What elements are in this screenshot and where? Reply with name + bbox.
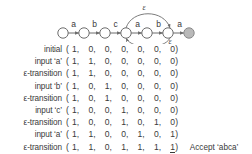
vector-cell: 1, xyxy=(105,93,121,103)
trace-row: input ‘a’(1,1,0,0,0,0,0) xyxy=(0,56,252,68)
state-4 xyxy=(142,28,152,38)
vector-cell: 1, xyxy=(72,81,88,91)
vector-comma: , xyxy=(142,105,144,115)
trace-row-label: input ‘b’ xyxy=(0,82,66,91)
vector-cell: 0, xyxy=(121,93,137,103)
epsilon-label-above: ε xyxy=(142,3,146,12)
edge-label-a-1: a xyxy=(71,19,76,29)
vector-comma: , xyxy=(93,93,95,103)
state-vector: (1,1,0,0,0,0,0) xyxy=(66,68,187,78)
vector-cell: 1, xyxy=(121,117,137,127)
vector-cell: 0, xyxy=(154,129,170,139)
vector-comma: , xyxy=(110,142,112,152)
vector-comma: , xyxy=(126,117,128,127)
vector-cell: 0, xyxy=(105,68,121,78)
edge-label-b-1: b xyxy=(92,19,97,29)
trace-row: input ‘a’(1,1,0,0,1,0,1) xyxy=(0,129,252,141)
state-3 xyxy=(121,28,131,38)
vector-cell: 1, xyxy=(121,105,137,115)
trace-row-label: initial xyxy=(0,45,66,54)
vector-comma: , xyxy=(77,56,79,66)
vector-comma: , xyxy=(110,81,112,91)
vector-comma: , xyxy=(110,129,112,139)
trace-row-label: ε-transition xyxy=(0,94,66,103)
vector-cell: 1, xyxy=(72,93,88,103)
vector-cell: 0, xyxy=(154,68,170,78)
trace-row: ε-transition(1,0,1,0,0,0,0) xyxy=(0,93,252,105)
trace-row-label: input ‘a’ xyxy=(0,130,66,139)
state-vector: (1,1,0,0,1,0,1) xyxy=(66,129,187,139)
vector-cell: 0, xyxy=(138,81,154,91)
vector-cell: 0) xyxy=(170,44,186,54)
vector-cell: 0, xyxy=(138,68,154,78)
vector-cell: 1, xyxy=(72,105,88,115)
accept-note: Accept ‘abca’ xyxy=(187,143,239,152)
trace-row: ε-transition(1,0,0,1,0,1,0) xyxy=(0,117,252,129)
vector-cell: 0, xyxy=(88,93,104,103)
vector-cell: 1, xyxy=(72,68,88,78)
vector-cell: 0) xyxy=(170,68,186,78)
vector-comma: , xyxy=(93,56,95,66)
vector-comma: , xyxy=(126,129,128,139)
state-vector: (1,0,0,1,0,1,0) xyxy=(66,117,187,127)
trace-row-label: input ‘c’ xyxy=(0,106,66,115)
vector-comma: , xyxy=(126,105,128,115)
vector-cell: 1, xyxy=(121,142,137,152)
vector-comma: , xyxy=(93,44,95,54)
trace-row: input ‘b’(1,0,1,0,0,0,0) xyxy=(0,81,252,93)
vector-comma: , xyxy=(126,68,128,78)
vector-cell: 1, xyxy=(72,117,88,127)
vector-cell: 0, xyxy=(154,81,170,91)
vector-comma: , xyxy=(142,56,144,66)
trace-row-label: ε-transition xyxy=(0,143,66,152)
vector-close-paren: ) xyxy=(175,56,178,66)
vector-cell: 0, xyxy=(88,44,104,54)
vector-cell: 0, xyxy=(105,44,121,54)
vector-cell: 0) xyxy=(170,117,186,127)
vector-cell: 0, xyxy=(88,105,104,115)
vector-comma: , xyxy=(77,105,79,115)
vector-close-paren: ) xyxy=(175,142,178,152)
vector-cell: 1, xyxy=(138,129,154,139)
vector-comma: , xyxy=(159,81,161,91)
vector-comma: , xyxy=(110,68,112,78)
vector-close-paren: ) xyxy=(175,105,178,115)
vector-cell: 0) xyxy=(170,105,186,115)
edge-label-c-1: c xyxy=(113,19,118,29)
vector-close-paren: ) xyxy=(175,81,178,91)
vector-comma: , xyxy=(126,44,128,54)
vector-cell: 1, xyxy=(88,56,104,66)
state-0 xyxy=(58,28,68,38)
vector-comma: , xyxy=(126,56,128,66)
vector-comma: , xyxy=(142,81,144,91)
vector-cell: 0) xyxy=(170,81,186,91)
state-2 xyxy=(100,28,110,38)
trace-row: ε-transition(1,1,0,1,1,1,1)Accept ‘abca’ xyxy=(0,142,252,154)
vector-cell: 1, xyxy=(72,44,88,54)
vector-cell: 0, xyxy=(121,81,137,91)
vector-comma: , xyxy=(110,117,112,127)
vector-comma: , xyxy=(110,44,112,54)
vector-comma: , xyxy=(77,68,79,78)
vector-cell: 1, xyxy=(72,129,88,139)
vector-comma: , xyxy=(159,93,161,103)
vector-cell: 0, xyxy=(105,129,121,139)
vector-cell: 0, xyxy=(121,56,137,66)
trace-row: ε-transition(1,1,0,0,0,0,0) xyxy=(0,68,252,80)
vector-comma: , xyxy=(126,142,128,152)
vector-comma: , xyxy=(142,142,144,152)
vector-cell: 0) xyxy=(170,56,186,66)
vector-cell: 1, xyxy=(105,81,121,91)
vector-close-paren: ) xyxy=(175,44,178,54)
vector-comma: , xyxy=(77,93,79,103)
vector-comma: , xyxy=(142,129,144,139)
vector-cell: 1, xyxy=(154,142,170,152)
state-vector: (1,0,0,1,0,0,0) xyxy=(66,105,187,115)
epsilon-edge-above xyxy=(126,14,170,28)
vector-cell: 0, xyxy=(138,56,154,66)
vector-cell: 0, xyxy=(154,56,170,66)
trace-row: initial(1,0,0,0,0,0,0) xyxy=(0,44,252,56)
vector-comma: , xyxy=(93,129,95,139)
state-vector: (1,0,1,0,0,0,0) xyxy=(66,93,187,103)
automaton-svg: a b c a b a ε ε xyxy=(0,0,252,44)
